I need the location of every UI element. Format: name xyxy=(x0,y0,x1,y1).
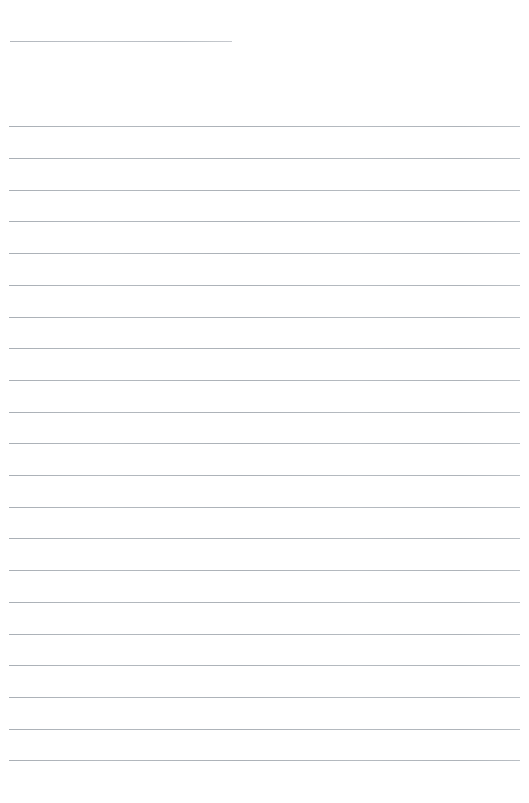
text-line[interactable] xyxy=(11,636,522,667)
text-line[interactable] xyxy=(11,700,522,731)
ruled-paper-page xyxy=(0,0,529,803)
text-line[interactable] xyxy=(11,192,522,223)
ruled-line-area xyxy=(0,0,529,803)
text-line[interactable] xyxy=(11,414,522,445)
text-line[interactable] xyxy=(11,478,522,509)
text-line[interactable] xyxy=(11,446,522,477)
text-line[interactable] xyxy=(11,668,522,699)
text-line[interactable] xyxy=(11,383,522,414)
text-line[interactable] xyxy=(11,129,522,160)
text-line[interactable] xyxy=(11,97,522,128)
text-line[interactable] xyxy=(11,319,522,350)
text-line[interactable] xyxy=(11,288,522,319)
text-line[interactable] xyxy=(11,731,522,762)
text-line[interactable] xyxy=(11,256,522,287)
text-line[interactable] xyxy=(11,224,522,255)
text-line[interactable] xyxy=(11,161,522,192)
title-text[interactable] xyxy=(12,13,234,44)
text-line[interactable] xyxy=(11,509,522,540)
text-line[interactable] xyxy=(11,573,522,604)
text-line[interactable] xyxy=(11,541,522,572)
text-line[interactable] xyxy=(11,605,522,636)
text-line[interactable] xyxy=(11,351,522,382)
